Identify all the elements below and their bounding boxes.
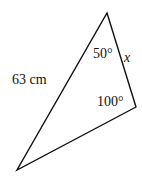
angle-label-top: 50° [93, 46, 113, 61]
triangle-diagram: 63 cm x 50° 100° [0, 0, 142, 176]
angle-label-right: 100° [97, 94, 124, 109]
side-label-left: 63 cm [12, 72, 47, 87]
side-label-right: x [123, 50, 131, 65]
triangle [17, 13, 136, 170]
